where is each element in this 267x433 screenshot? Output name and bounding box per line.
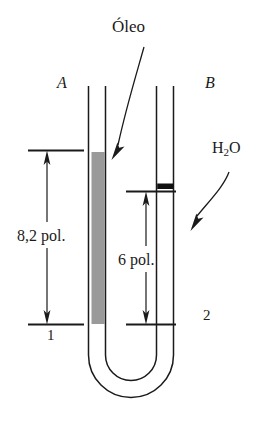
point-label-1: 1 xyxy=(47,328,55,343)
point-label-2: 2 xyxy=(203,308,211,323)
tube-label-b: B xyxy=(205,75,215,91)
oleo-leader-arrowhead xyxy=(112,143,125,160)
dimension-middle-label: 6 pol. xyxy=(118,252,154,268)
oleo-leader-line xyxy=(118,47,144,145)
water-label-oxygen: O xyxy=(229,139,241,156)
water-level-band xyxy=(157,184,173,190)
water-label: H2O xyxy=(212,140,241,158)
manometer-drawing xyxy=(0,0,267,433)
oil-column-fill xyxy=(92,152,105,324)
tube-inner-wall xyxy=(106,86,157,381)
dimension-left-label: 8,2 pol. xyxy=(17,228,65,244)
oil-label: Óleo xyxy=(112,18,145,35)
tube-label-a: A xyxy=(57,75,67,91)
h2o-leader-arrowhead xyxy=(191,214,204,231)
water-label-element: H xyxy=(212,139,224,156)
h2o-leader-line xyxy=(197,172,229,216)
manometer-figure: Óleo A B H2O 8,2 pol. 6 pol. 1 2 xyxy=(0,0,267,433)
